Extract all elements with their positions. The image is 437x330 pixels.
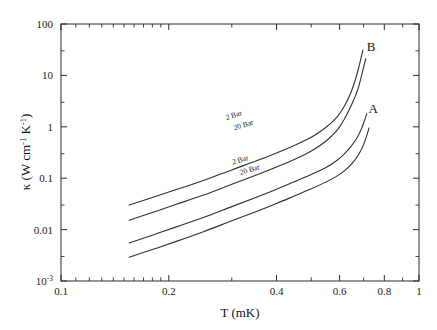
- x-tick-label-0: 0.1: [54, 285, 68, 297]
- x-axis-title: T (mK): [220, 305, 259, 320]
- y-tick-label-3: 0.1: [39, 172, 53, 184]
- y-tick-label-4: 0.01: [34, 224, 53, 236]
- x-tick-label-9: 1: [416, 285, 422, 297]
- curve-b-20-bar: [129, 59, 366, 220]
- y-tick-label-5: 10-3: [36, 274, 53, 287]
- curve-label-b: B: [367, 39, 376, 54]
- x-axis-tick-labels: 0.10.20.40.60.81: [54, 285, 422, 297]
- y-tick-label-2: 1: [48, 121, 54, 133]
- data-curves: [129, 50, 369, 257]
- x-tick-label-1: 0.2: [162, 285, 176, 297]
- y-tick-label-exponent-5: -3: [47, 274, 53, 283]
- curve-label-a: A: [369, 101, 379, 116]
- y-tick-label-0: 100: [37, 18, 54, 30]
- x-tick-label-5: 0.6: [333, 285, 347, 297]
- y-axis-title: κ (W cm-1 K-1): [18, 114, 33, 190]
- curve-a-20-bar: [129, 128, 369, 257]
- thermal-conductivity-chart: 0.10.20.40.60.81 1001010.10.0110-3 BA2 B…: [0, 0, 437, 330]
- x-axis-units: (mK): [231, 305, 259, 320]
- svg-text:T (mK): T (mK): [220, 305, 259, 320]
- svg-text:κ (W cm-1 K-1): κ (W cm-1 K-1): [18, 114, 33, 190]
- series-label-b-20bar: 20 Bar: [232, 117, 255, 132]
- chart-page: 0.10.20.40.60.81 1001010.10.0110-3 BA2 B…: [0, 0, 437, 330]
- x-tick-label-3: 0.4: [270, 285, 284, 297]
- y-tick-label-1: 10: [42, 69, 54, 81]
- series-label-b-2bar: 2 Bar: [224, 108, 243, 122]
- x-tick-label-7: 0.8: [377, 285, 391, 297]
- y-axis-tick-labels: 1001010.10.0110-3: [34, 18, 54, 287]
